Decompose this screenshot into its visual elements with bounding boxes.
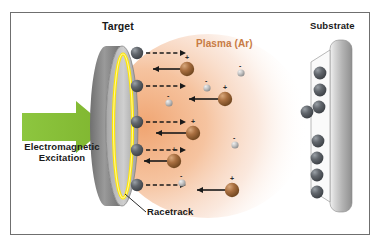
ion-charge-sign: + bbox=[223, 84, 227, 91]
ion-charge-sign: + bbox=[191, 118, 195, 125]
plasma-label: Plasma (Ar) bbox=[196, 38, 253, 50]
ion-charge-sign: + bbox=[172, 146, 176, 153]
excitation-line-2: Excitation bbox=[39, 152, 85, 163]
racetrack-leader-line bbox=[125, 194, 146, 212]
excitation-line-1: Electromagnetic bbox=[24, 141, 99, 152]
ion-charge-sign: + bbox=[185, 54, 189, 61]
substrate-label: Substrate bbox=[310, 21, 355, 32]
racetrack-label: Racetrack bbox=[147, 207, 193, 218]
ion-charge-sign: + bbox=[230, 175, 234, 182]
electron-charge-sign: - bbox=[167, 92, 169, 99]
figure-canvas: + + + + + - - - - - Target Substrate Pla… bbox=[0, 0, 382, 250]
electron-charge-sign: - bbox=[239, 62, 241, 69]
electron-charge-sign: - bbox=[180, 172, 182, 179]
target-plate bbox=[90, 46, 138, 206]
electromagnetic-excitation-label: Electromagnetic Excitation bbox=[14, 142, 110, 164]
electron-charge-sign: - bbox=[233, 134, 235, 141]
target-label: Target bbox=[102, 20, 134, 32]
electron-charge-sign: - bbox=[205, 77, 207, 84]
